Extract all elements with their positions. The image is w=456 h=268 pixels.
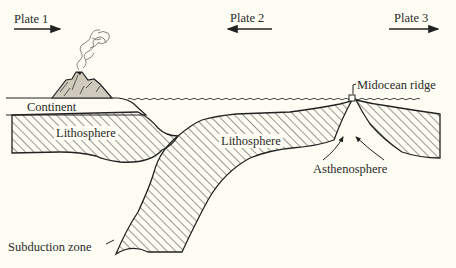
midocean-ridge-label: Midocean ridge xyxy=(357,78,436,92)
lithosphere-left-label: Lithosphere xyxy=(54,126,118,140)
ridge-notch-icon xyxy=(349,95,355,101)
plate-3-label: Plate 3 xyxy=(394,11,428,25)
ocean-surface xyxy=(128,98,420,100)
plate-1-label: Plate 1 xyxy=(14,12,48,26)
smoke-plume-icon xyxy=(77,30,109,70)
lithosphere-right xyxy=(356,100,440,158)
subduction-leader xyxy=(106,240,114,244)
lithosphere-center-label: Lithosphere xyxy=(219,134,283,148)
subduction-zone-label: Subduction zone xyxy=(8,240,92,254)
plate-2-label: Plate 2 xyxy=(230,11,264,25)
midocean-ridge-leader xyxy=(353,84,356,94)
continent-label: Continent xyxy=(27,100,76,114)
asthenosphere-label: Asthenosphere xyxy=(313,162,387,176)
volcano-icon xyxy=(52,72,112,98)
